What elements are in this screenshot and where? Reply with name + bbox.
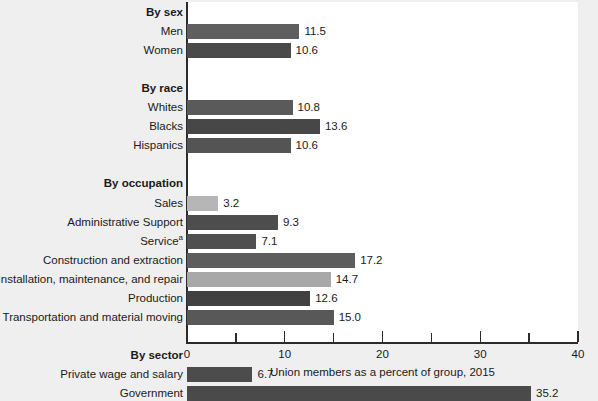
bar-row: Women10.6	[0, 43, 598, 58]
bar-row: Sales3.2	[0, 196, 598, 211]
bar	[187, 215, 278, 230]
axis-tick-major	[186, 331, 187, 342]
bar-row: Transportation and material moving15.0	[0, 310, 598, 325]
bar	[187, 253, 355, 268]
category-label: Women	[0, 43, 183, 58]
bar-value-label: 9.3	[283, 215, 299, 230]
bar-value-label: 10.8	[298, 100, 320, 115]
category-label: Servicea	[0, 234, 183, 249]
group-heading-row: By sector	[0, 348, 598, 363]
axis-tick-minor	[431, 333, 432, 342]
axis-tick-major	[480, 331, 481, 342]
axis-tick-major	[382, 331, 383, 342]
bar-row: Men11.5	[0, 24, 598, 39]
category-label: Government	[0, 386, 183, 401]
bar-value-label: 3.2	[223, 196, 239, 211]
axis-tick-minor	[528, 333, 529, 342]
bar-value-label: 11.5	[304, 24, 326, 39]
group-heading-label: By sex	[0, 5, 183, 20]
group-heading-row: By race	[0, 81, 598, 96]
axis-tick-minor	[235, 333, 236, 342]
bar-row: Construction and extraction17.2	[0, 253, 598, 268]
x-axis-title: Union members as a percent of group, 201…	[187, 366, 578, 378]
bar	[187, 386, 531, 401]
category-label: Men	[0, 24, 183, 39]
bar	[187, 234, 256, 249]
bar	[187, 119, 320, 134]
bar-row: Blacks13.6	[0, 119, 598, 134]
bar	[187, 310, 334, 325]
value-axis-line	[186, 342, 578, 344]
category-label: Installation, maintenance, and repair	[0, 272, 183, 287]
group-heading-row: By occupation	[0, 176, 598, 191]
bar	[187, 272, 331, 287]
category-label: Sales	[0, 196, 183, 211]
bar-value-label: 14.7	[336, 272, 358, 287]
bar	[187, 100, 293, 115]
category-label: Hispanics	[0, 138, 183, 153]
bar-value-label: 13.6	[325, 119, 347, 134]
bar-value-label: 10.6	[296, 43, 318, 58]
bar	[187, 291, 310, 306]
bar-value-label: 35.2	[536, 386, 558, 401]
group-heading-label: By race	[0, 81, 183, 96]
category-label: Private wage and salary	[0, 367, 183, 382]
bar-row: Servicea7.1	[0, 234, 598, 249]
bar-row: Hispanics10.6	[0, 138, 598, 153]
axis-tick-major	[577, 331, 578, 342]
bar-row: Installation, maintenance, and repair14.…	[0, 272, 598, 287]
group-heading-label: By occupation	[0, 176, 183, 191]
category-label: Production	[0, 291, 183, 306]
group-heading-label: By sector	[0, 348, 183, 363]
footnote-marker: a	[179, 233, 183, 242]
bar-value-label: 7.1	[261, 234, 277, 249]
category-label: Administrative Support	[0, 215, 183, 230]
bar	[187, 196, 218, 211]
category-label: Construction and extraction	[0, 253, 183, 268]
bar-value-label: 15.0	[339, 310, 361, 325]
group-heading-row: By sex	[0, 5, 598, 20]
bar-row: Whites10.8	[0, 100, 598, 115]
bar-row: Production12.6	[0, 291, 598, 306]
axis-tick-major	[284, 331, 285, 342]
bar-value-label: 10.6	[296, 138, 318, 153]
category-label: Blacks	[0, 119, 183, 134]
bar	[187, 24, 299, 39]
bar	[187, 43, 291, 58]
bar-value-label: 12.6	[315, 291, 337, 306]
bar-row: Administrative Support9.3	[0, 215, 598, 230]
bar-value-label: 17.2	[360, 253, 382, 268]
category-label: Whites	[0, 100, 183, 115]
bar-row: Government35.2	[0, 386, 598, 401]
bar	[187, 138, 291, 153]
axis-tick-minor	[333, 333, 334, 342]
category-label: Transportation and material moving	[0, 310, 183, 325]
